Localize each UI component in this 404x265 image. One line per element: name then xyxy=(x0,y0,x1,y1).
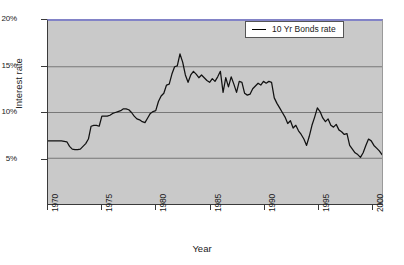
x-tick-mark xyxy=(372,205,373,210)
x-tick-label: 2000 xyxy=(376,194,385,212)
x-tick-mark xyxy=(318,205,319,210)
y-tick-label: 5% xyxy=(6,155,17,163)
series-path xyxy=(48,54,382,157)
x-tick-label: 1990 xyxy=(268,194,277,212)
x-tick-label: 1995 xyxy=(322,194,331,212)
x-tick-label: 1975 xyxy=(105,194,114,212)
x-tick-label: 1970 xyxy=(51,194,60,212)
x-tick-mark xyxy=(210,205,211,210)
plot-area xyxy=(47,19,383,205)
x-tick-mark xyxy=(155,205,156,210)
x-tick-mark xyxy=(264,205,265,210)
legend-label: 10 Yr Bonds rate xyxy=(272,24,336,34)
y-axis-title: Interest rate xyxy=(13,24,24,144)
y-tick-label: 10% xyxy=(2,108,17,116)
series-line-10-yr-bonds-rate xyxy=(48,21,382,204)
chart-figure: Interest rate 5%10%15%20% 19701975198019… xyxy=(0,0,404,265)
x-tick-mark xyxy=(47,205,48,210)
x-axis-title: Year xyxy=(0,243,404,254)
x-tick-label: 1985 xyxy=(214,194,223,212)
x-tick-label: 1980 xyxy=(159,194,168,212)
chart-legend: 10 Yr Bonds rate xyxy=(245,21,344,38)
x-tick-mark xyxy=(101,205,102,210)
y-tick-label: 20% xyxy=(2,15,17,23)
y-tick-label: 15% xyxy=(2,62,17,70)
legend-line-swatch xyxy=(252,29,266,30)
